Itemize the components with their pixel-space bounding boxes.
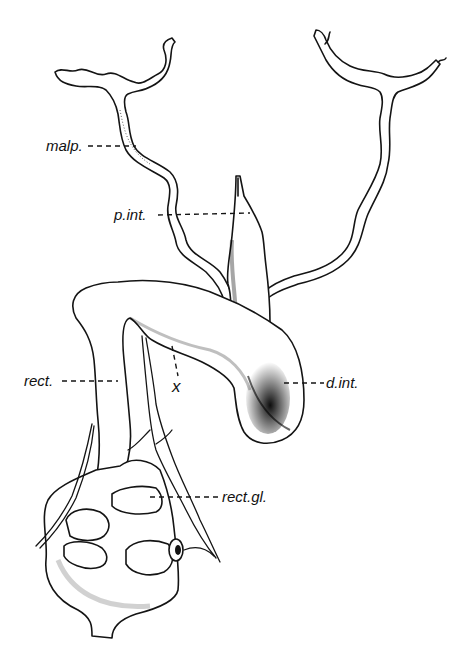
malpighian-tubule-right [264, 30, 446, 298]
label-p-int: p.int. [114, 207, 147, 222]
anatomical-figure [0, 0, 462, 653]
label-malp: malp. [46, 138, 83, 153]
label-rect: rect. [24, 373, 53, 388]
distal-intestine-shading [246, 362, 290, 434]
malpighian-tubule-left [55, 38, 232, 302]
label-x-mark: x [172, 378, 181, 395]
label-rect-gl: rect.gl. [222, 489, 267, 504]
posterior-intestine [227, 176, 270, 322]
rectal-sac [44, 460, 183, 638]
label-d-int: d.int. [326, 375, 359, 390]
